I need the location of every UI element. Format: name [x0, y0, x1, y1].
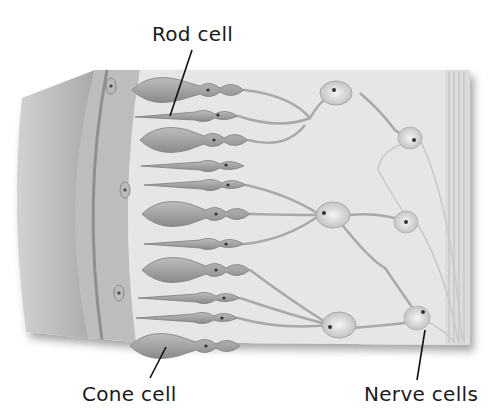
- tissue-block: [17, 70, 470, 345]
- cone-cell-label: Cone cell: [82, 382, 177, 406]
- rod-cell-label: Rod cell: [152, 22, 233, 46]
- retina-illustration: [0, 0, 494, 410]
- retina-diagram: Rod cell Cone cell Nerve cells: [0, 0, 494, 410]
- nerve-cells-label: Nerve cells: [364, 382, 478, 406]
